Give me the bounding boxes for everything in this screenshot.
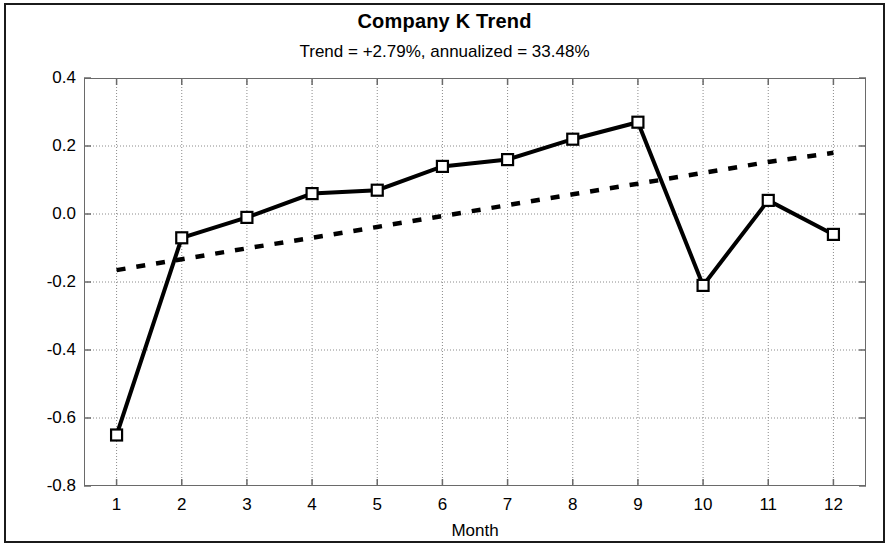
x-tick-label: 11	[748, 495, 788, 515]
x-tick-label: 10	[683, 495, 723, 515]
x-tick-label: 6	[422, 495, 462, 515]
x-tick-label: 9	[618, 495, 658, 515]
x-tick-label: 3	[227, 495, 267, 515]
x-axis-ticklabels: 123456789101112	[0, 0, 889, 547]
x-tick-label: 12	[813, 495, 853, 515]
x-tick-label: 4	[292, 495, 332, 515]
x-tick-label: 5	[357, 495, 397, 515]
x-tick-label: 2	[162, 495, 202, 515]
x-tick-label: 1	[97, 495, 137, 515]
chart-figure: Company K Trend Trend = +2.79%, annualiz…	[0, 0, 889, 547]
x-tick-label: 8	[553, 495, 593, 515]
x-axis-label: Month	[84, 521, 866, 541]
x-tick-label: 7	[488, 495, 528, 515]
